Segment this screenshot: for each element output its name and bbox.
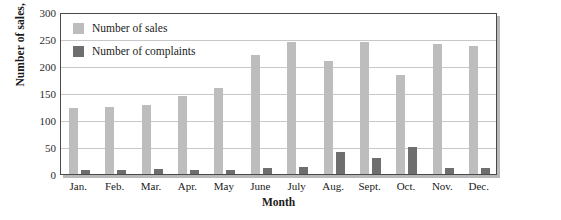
bar-group: [462, 13, 497, 174]
y-tick-250: 250: [40, 34, 57, 46]
bar-complaints: [299, 167, 308, 174]
bar-sales: [396, 75, 405, 174]
x-axis-title: Month: [60, 196, 497, 208]
bar-complaints: [154, 169, 163, 174]
bar-sales: [360, 42, 369, 174]
bar-group: [207, 13, 243, 174]
bar-sales: [324, 61, 333, 174]
bar-chart: Number of sales, complaints 050100150200…: [0, 0, 561, 220]
x-tick-Sept: Sept.: [358, 180, 380, 192]
bar-complaints: [117, 170, 126, 174]
x-tick-Apr: Apr.: [178, 180, 197, 192]
bar-complaints: [372, 158, 381, 174]
bar-complaints: [408, 147, 417, 174]
y-tick-150: 150: [40, 88, 57, 100]
chart-legend: Number of sales Number of complaints: [73, 22, 195, 68]
bar-group: [243, 13, 279, 174]
x-tick-June: June: [250, 180, 270, 192]
y-axis-tick-labels: 050100150200250300: [26, 0, 56, 220]
y-tick-0: 0: [51, 169, 57, 181]
x-tick-Nov: Nov.: [432, 180, 453, 192]
bar-sales: [69, 108, 78, 174]
x-tick-Jan: Jan.: [69, 180, 86, 192]
bar-complaints: [190, 170, 199, 174]
y-tick-100: 100: [40, 115, 57, 127]
bar-sales: [214, 88, 223, 174]
bar-complaints: [445, 168, 454, 174]
bar-sales: [469, 46, 478, 174]
x-tick-Dec: Dec.: [469, 180, 489, 192]
bar-complaints: [226, 170, 235, 174]
legend-swatch-sales: [73, 23, 84, 34]
x-tick-Mar: Mar.: [141, 180, 161, 192]
y-tick-50: 50: [45, 142, 56, 154]
legend-swatch-complaints: [73, 46, 84, 57]
legend-label-complaints: Number of complaints: [92, 45, 195, 57]
plot-area: Number of sales Number of complaints: [60, 13, 497, 175]
y-axis-title: Number of sales, complaints: [14, 0, 26, 106]
bar-complaints: [263, 168, 272, 174]
bar-sales: [287, 42, 296, 174]
bar-sales: [105, 107, 114, 174]
bar-sales: [142, 105, 151, 174]
y-tick-200: 200: [40, 61, 57, 73]
bar-group: [352, 13, 388, 174]
y-tick-300: 300: [40, 7, 57, 19]
legend-item-sales: Number of sales: [73, 22, 195, 34]
legend-item-complaints: Number of complaints: [73, 45, 195, 57]
bar-group: [280, 13, 316, 174]
bar-group: [389, 13, 425, 174]
bar-sales: [178, 96, 187, 174]
x-tick-May: May: [214, 180, 234, 192]
bar-group: [425, 13, 461, 174]
bar-sales: [251, 55, 260, 174]
bar-sales: [433, 44, 442, 174]
bar-group: [316, 13, 352, 174]
bar-complaints: [481, 168, 490, 174]
x-tick-July: July: [288, 180, 306, 192]
legend-label-sales: Number of sales: [92, 22, 167, 34]
bar-complaints: [81, 170, 90, 174]
bar-complaints: [336, 152, 345, 174]
x-tick-Feb: Feb.: [105, 180, 124, 192]
x-tick-Oct: Oct.: [397, 180, 416, 192]
x-tick-Aug: Aug.: [322, 180, 344, 192]
